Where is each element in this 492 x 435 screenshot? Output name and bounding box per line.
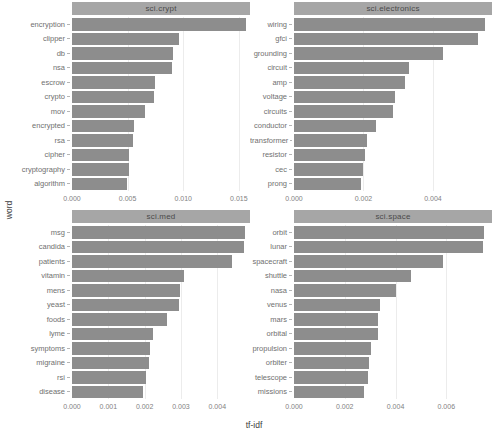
x-tick-label: 0.000 [285, 403, 303, 410]
bar-crypto [72, 91, 154, 104]
facet-sci-med: sci.med msgcandidapatientsvitaminmensyea… [16, 210, 250, 413]
word-label: lunar [270, 243, 287, 251]
word-row: db [16, 47, 72, 60]
word-row: crypto [16, 91, 72, 104]
word-label: missions [258, 388, 287, 396]
x-axis: 0.0000.0050.0100.015 [72, 193, 250, 205]
x-axis: 0.0000.0020.0040.006 [294, 401, 492, 413]
word-row: orbiter [250, 357, 294, 370]
word-row: encrypted [16, 120, 72, 133]
bar-circuit [294, 62, 409, 75]
word-label: encryption [30, 21, 65, 29]
x-tick-label: 0.004 [387, 403, 405, 410]
y-axis-tick [289, 362, 292, 363]
plot-panel [294, 225, 492, 399]
y-axis-tick [67, 111, 70, 112]
word-label: venus [267, 301, 287, 309]
word-label: grounding [254, 50, 287, 58]
bar-msg [72, 226, 245, 239]
bar-telescope [294, 371, 368, 384]
word-row: rsa [16, 134, 72, 147]
word-label: wiring [267, 21, 287, 29]
word-label: prong [268, 180, 287, 188]
word-row: mars [250, 313, 294, 326]
bar-db [72, 47, 173, 60]
word-row: msg [16, 226, 72, 239]
word-label: escrow [41, 79, 65, 87]
word-row: nasa [250, 284, 294, 297]
x-tick-label: 0.006 [438, 403, 456, 410]
word-row: cryptography [16, 163, 72, 176]
bar-lunar [294, 241, 483, 254]
bar-nsa [72, 62, 172, 75]
x-tick-label: 0.000 [63, 195, 81, 202]
y-axis-tick [67, 154, 70, 155]
word-label: candida [39, 243, 65, 251]
word-axis: orbitlunarspacecraftshuttlenasavenusmars… [250, 225, 294, 399]
y-axis-tick [289, 304, 292, 305]
y-axis-tick [67, 377, 70, 378]
bar-rsa [72, 134, 133, 147]
word-row: cec [250, 163, 294, 176]
y-axis-tick [67, 183, 70, 184]
y-axis-tick [67, 96, 70, 97]
facet-sci-crypt: sci.crypt encryptionclipperdbnsaescrowcr… [16, 2, 250, 205]
word-row: resistor [250, 149, 294, 162]
x-tick-label: 0.015 [230, 195, 248, 202]
word-row: grounding [250, 47, 294, 60]
bar-mars [294, 313, 378, 326]
word-label: nasa [271, 287, 287, 295]
x-axis: 0.0000.0010.0020.0030.004 [72, 401, 250, 413]
plot-panel [72, 225, 250, 399]
bar-clipper [72, 33, 179, 46]
word-label: orbit [272, 229, 287, 237]
word-row: wiring [250, 18, 294, 31]
bar-algorithm [72, 178, 127, 191]
y-axis-tick [67, 53, 70, 54]
y-axis-tick [289, 183, 292, 184]
bar-rsi [72, 371, 146, 384]
y-axis-tick [289, 246, 292, 247]
bar-venus [294, 299, 380, 312]
word-label: gfci [275, 35, 287, 43]
word-row: migraine [16, 357, 72, 370]
bar-escrow [72, 76, 155, 89]
word-row: venus [250, 299, 294, 312]
word-label: cryptography [22, 166, 65, 174]
x-axis: 0.0000.0020.004 [294, 193, 492, 205]
y-axis-tick [289, 275, 292, 276]
bar-cec [294, 163, 363, 176]
bar-cryptography [72, 163, 129, 176]
bar-foods [72, 313, 167, 326]
word-label: db [57, 50, 65, 58]
y-axis-tick [289, 96, 292, 97]
word-row: conductor [250, 120, 294, 133]
y-axis-tick [67, 169, 70, 170]
y-axis-tick [289, 348, 292, 349]
facet-strip-label: sci.space [375, 212, 410, 221]
y-axis-tick [289, 154, 292, 155]
bar-transformer [294, 134, 367, 147]
bar-patients [72, 255, 232, 268]
bar-wiring [294, 18, 485, 31]
facet-strip-label: sci.electronics [366, 4, 419, 13]
y-axis-tick [289, 391, 292, 392]
word-label: mens [47, 287, 65, 295]
y-axis-tick [67, 290, 70, 291]
plot-panel [294, 17, 492, 191]
y-axis-tick [67, 362, 70, 363]
word-label: msg [51, 229, 65, 237]
facet-strip: sci.crypt [72, 2, 250, 15]
word-row: cipher [16, 149, 72, 162]
word-label: transformer [250, 137, 288, 145]
bar-disease [72, 386, 143, 399]
word-label: circuits [264, 108, 287, 116]
word-row: clipper [16, 33, 72, 46]
word-label: lyme [49, 330, 65, 338]
y-axis-tick [67, 232, 70, 233]
bar-gfci [294, 33, 478, 46]
bar-cipher [72, 149, 129, 162]
word-row: disease [16, 386, 72, 399]
word-row: amp [250, 76, 294, 89]
word-label: telescope [255, 374, 287, 382]
